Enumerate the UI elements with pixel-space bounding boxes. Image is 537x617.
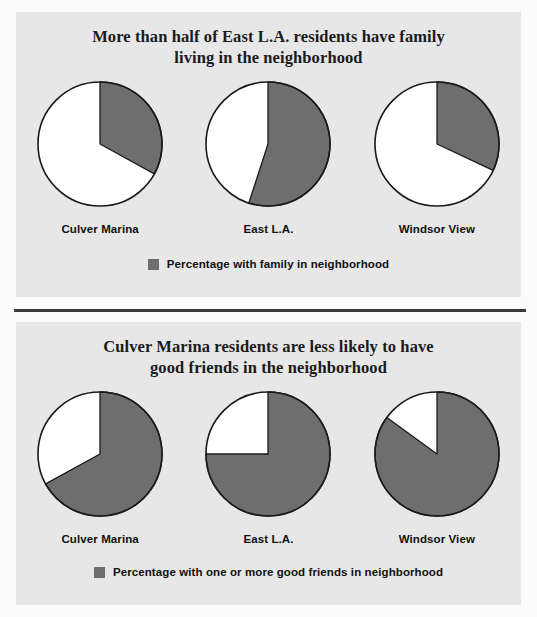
panel-family-title: More than half of East L.A. residents ha…	[16, 26, 521, 68]
pie-graphic	[198, 384, 338, 524]
pie-category-label: Culver Marina	[61, 223, 138, 235]
pie-category-label: Culver Marina	[61, 533, 138, 545]
pie-cell: Windsor View	[357, 384, 517, 545]
legend-family-label: Percentage with family in neighborhood	[167, 258, 389, 270]
pie-graphic	[30, 384, 170, 524]
panel-family-title-line2: living in the neighborhood	[16, 47, 521, 68]
pie-graphic	[30, 74, 170, 214]
panel-friends-title-line1: Culver Marina residents are less likely …	[103, 337, 434, 356]
pie-category-label: Windsor View	[399, 533, 475, 545]
pie-chart-figure: More than half of East L.A. residents ha…	[0, 0, 537, 617]
panel-friends-title-line2: good friends in the neighborhood	[16, 357, 521, 378]
pie-category-label: Windsor View	[399, 223, 475, 235]
panel-family-title-line1: More than half of East L.A. residents ha…	[92, 27, 445, 46]
legend-swatch-icon	[148, 259, 159, 270]
legend-friends: Percentage with one or more good friends…	[16, 566, 521, 578]
pie-cell: Culver Marina	[20, 384, 180, 545]
legend-swatch-icon	[94, 567, 105, 578]
pie-row-friends: Culver MarinaEast L.A.Windsor View	[16, 384, 521, 545]
pie-category-label: East L.A.	[243, 533, 293, 545]
pie-cell: Windsor View	[357, 74, 517, 235]
panel-friends: Culver Marina residents are less likely …	[16, 322, 521, 605]
pie-cell: Culver Marina	[20, 74, 180, 235]
legend-friends-label: Percentage with one or more good friends…	[113, 566, 443, 578]
pie-graphic	[367, 384, 507, 524]
panel-friends-title: Culver Marina residents are less likely …	[16, 336, 521, 378]
pie-graphic	[367, 74, 507, 214]
panel-divider	[14, 309, 526, 312]
pie-cell: East L.A.	[188, 74, 348, 235]
panel-family: More than half of East L.A. residents ha…	[16, 12, 521, 297]
pie-graphic	[198, 74, 338, 214]
pie-cell: East L.A.	[188, 384, 348, 545]
pie-category-label: East L.A.	[243, 223, 293, 235]
legend-family: Percentage with family in neighborhood	[16, 258, 521, 270]
pie-row-family: Culver MarinaEast L.A.Windsor View	[16, 74, 521, 235]
